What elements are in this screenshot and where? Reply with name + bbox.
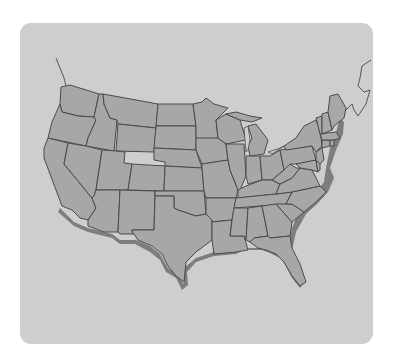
- state-ct[interactable]: [322, 140, 330, 148]
- state-co[interactable]: [128, 164, 165, 191]
- state-sd[interactable]: [154, 126, 196, 150]
- state-ms[interactable]: [230, 208, 248, 240]
- state-ks[interactable]: [164, 166, 204, 191]
- state-ut[interactable]: [96, 150, 132, 190]
- us-map: [0, 0, 396, 363]
- state-ar[interactable]: [206, 198, 236, 222]
- state-ne[interactable]: [154, 148, 202, 168]
- state-fl[interactable]: [250, 236, 306, 286]
- state-nm[interactable]: [118, 190, 155, 234]
- state-wa[interactable]: [60, 85, 99, 117]
- state-wy[interactable]: [116, 124, 156, 152]
- canada-coast-east: [346, 60, 371, 116]
- states-group: [44, 85, 346, 286]
- state-mi[interactable]: [248, 124, 268, 156]
- state-ny[interactable]: [284, 120, 322, 152]
- state-ri[interactable]: [330, 140, 334, 146]
- state-in[interactable]: [246, 156, 262, 184]
- state-nd[interactable]: [156, 104, 196, 126]
